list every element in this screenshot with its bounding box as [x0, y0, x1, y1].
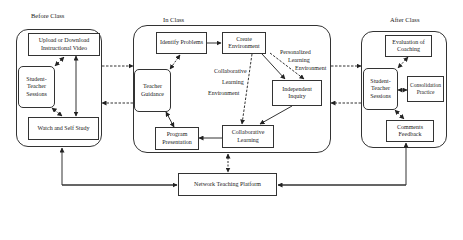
- node-student-teacher-sessions-after: Student-Teacher Sessions: [363, 68, 398, 110]
- annotation-learning: Learning: [222, 79, 244, 85]
- node-student-teacher-sessions-before: Student-Teacher Sessions: [18, 66, 55, 108]
- node-independent-inquiry: Independent Inquiry: [272, 80, 322, 106]
- node-collaborative-learning: Collaborative Learning: [222, 125, 274, 148]
- node-identify-problems: Identify Problems: [156, 32, 207, 54]
- annotation-collaborative: Collaborative: [214, 68, 247, 74]
- node-upload-download-video: Upload or Download Instructional Video: [28, 33, 100, 56]
- annotation-personalized-environment: Environment: [295, 65, 326, 71]
- annotation-environment: Environment: [208, 90, 239, 96]
- node-teacher-guidance: Teacher Guidance: [134, 69, 171, 112]
- node-create-environment: Create Environment: [222, 32, 266, 54]
- node-evaluation-of-coaching: Evaluation of Coaching: [385, 35, 432, 57]
- annotation-personalized: Personalized: [280, 49, 311, 55]
- node-program-presentation: Program Presentation: [155, 127, 199, 150]
- node-comments-feedback: Comments Feedback: [386, 120, 434, 142]
- node-watch-self-study: Watch and Self Study: [28, 117, 99, 140]
- node-network-teaching-platform: Network Teaching Platform: [178, 173, 277, 196]
- annotation-personalized-learning: Learning: [288, 57, 310, 63]
- node-consolidation-practice: Consolidation Practice: [407, 76, 444, 102]
